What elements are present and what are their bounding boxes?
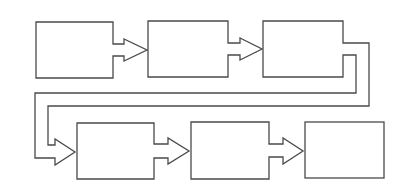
block-1	[36, 22, 147, 78]
block-6	[305, 122, 384, 178]
block-4	[77, 123, 189, 179]
flow-diagram	[0, 0, 410, 191]
block-2	[148, 21, 262, 77]
block-5	[191, 122, 303, 179]
